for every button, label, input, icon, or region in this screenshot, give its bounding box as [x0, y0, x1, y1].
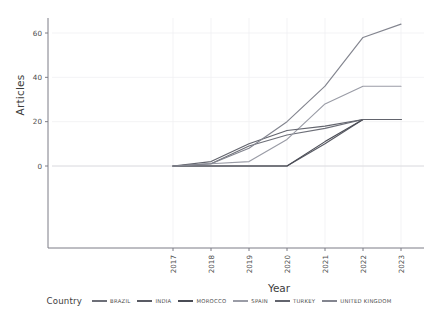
chart-legend: Country BRAZILINDIAMOROCCOSPAINTURKEYUNI…: [0, 296, 438, 306]
plot-area: 0204060 2017201820192020202120222023: [0, 0, 438, 295]
legend-swatch-icon: [92, 300, 107, 301]
svg-text:2017: 2017: [169, 255, 178, 273]
y-axis-ticks: 0204060: [33, 29, 48, 171]
svg-text:60: 60: [33, 29, 43, 38]
axis-lines: [48, 18, 424, 248]
gridlines: [52, 18, 424, 244]
legend-title: Country: [46, 296, 82, 306]
legend-item-label: UNITED KINGDOM: [340, 298, 391, 304]
legend-item-spain[interactable]: SPAIN: [233, 298, 268, 304]
legend-item-morocco[interactable]: MOROCCO: [178, 298, 226, 304]
svg-text:20: 20: [33, 117, 43, 126]
legend-swatch-icon: [275, 300, 290, 301]
svg-text:2018: 2018: [207, 255, 216, 274]
legend-item-label: BRAZIL: [110, 298, 130, 304]
legend-swatch-icon: [322, 300, 337, 301]
legend-item-united-kingdom[interactable]: UNITED KINGDOM: [322, 298, 391, 304]
svg-text:40: 40: [33, 73, 43, 82]
legend-item-turkey[interactable]: TURKEY: [275, 298, 315, 304]
svg-text:2019: 2019: [245, 255, 254, 274]
legend-item-label: SPAIN: [251, 298, 268, 304]
legend-swatch-icon: [137, 300, 152, 301]
legend-item-label: TURKEY: [293, 298, 315, 304]
x-axis-title-label: Year: [268, 282, 290, 294]
svg-text:0: 0: [37, 162, 42, 171]
chart-container: Articles 0204060 20172018201920202021202…: [0, 0, 438, 323]
legend-item-india[interactable]: INDIA: [137, 298, 171, 304]
svg-text:2021: 2021: [321, 255, 330, 273]
x-axis-title: Year: [0, 282, 438, 294]
svg-text:2023: 2023: [397, 255, 406, 273]
legend-swatch-icon: [178, 300, 193, 301]
svg-text:2022: 2022: [359, 255, 368, 273]
legend-item-label: INDIA: [155, 298, 171, 304]
legend-item-brazil[interactable]: BRAZIL: [92, 298, 130, 304]
x-axis-ticks: 2017201820192020202120222023: [169, 248, 406, 273]
legend-swatch-icon: [233, 300, 248, 301]
legend-item-label: MOROCCO: [196, 298, 226, 304]
legend-item-list: BRAZILINDIAMOROCCOSPAINTURKEYUNITED KING…: [92, 298, 391, 304]
svg-text:2020: 2020: [283, 255, 292, 274]
